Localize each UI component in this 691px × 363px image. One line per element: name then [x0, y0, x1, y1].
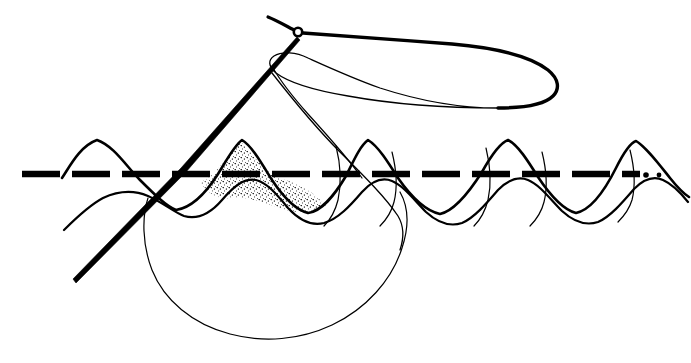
seam-end-dot-2: [657, 173, 662, 178]
seam-end-dot-1: [643, 172, 649, 178]
needle-eye-icon: [294, 28, 302, 36]
sewing-diagram-svg: [0, 0, 691, 363]
page-background: [0, 0, 691, 363]
illustration-canvas: Ink line drawing of a threaded sewing ne…: [0, 0, 691, 363]
